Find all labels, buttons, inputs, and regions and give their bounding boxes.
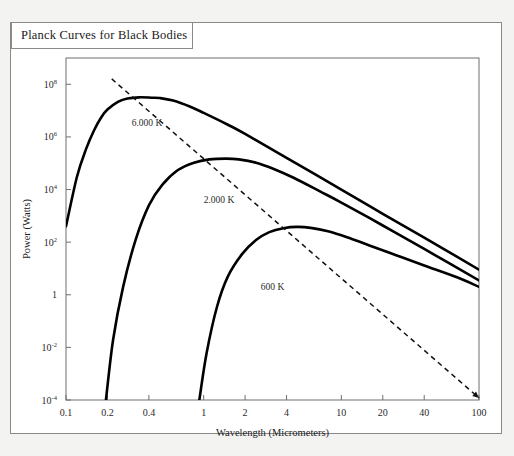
planck-curve-600k <box>199 227 479 400</box>
curve-label-600k: 600 K <box>261 282 285 292</box>
planck-curves-chart: 0.10.20.4124102040100108106104102110-210… <box>0 0 514 456</box>
x-tick-label: 10 <box>336 407 346 418</box>
x-tick-label: 2 <box>243 407 248 418</box>
y-tick-label: 1 <box>52 289 57 300</box>
axis-titles-group: Wavelength (Micrometers)Power (Watts) <box>21 198 330 439</box>
axis-ticks-group <box>66 84 479 400</box>
planck-curves-group <box>66 97 479 400</box>
plot-frame <box>66 58 479 400</box>
curve-label-2000k: 2.000 K <box>204 195 235 205</box>
y-tick-label: 108 <box>44 78 57 90</box>
y-axis-title: Power (Watts) <box>21 198 33 259</box>
chart-page: Planck Curves for Black Bodies 0.10.20.4… <box>0 0 514 456</box>
x-tick-label: 0.1 <box>60 407 73 418</box>
x-tick-label: 0.4 <box>143 407 156 418</box>
x-axis-title: Wavelength (Micrometers) <box>216 427 330 439</box>
y-tick-label: 10-2 <box>42 341 57 353</box>
y-tick-label: 10-4 <box>42 394 58 406</box>
y-tick-label: 106 <box>44 130 58 142</box>
x-tick-label: 40 <box>419 407 429 418</box>
x-tick-label: 0.2 <box>101 407 114 418</box>
curve-label-6000k: 6.000 K <box>132 118 163 128</box>
planck-curve-2000k <box>106 159 479 400</box>
y-tick-label: 104 <box>44 183 58 195</box>
x-tick-label: 100 <box>472 407 487 418</box>
x-tick-label: 4 <box>284 407 289 418</box>
axes-group <box>66 58 479 400</box>
y-tick-label: 102 <box>44 236 57 248</box>
x-tick-label: 1 <box>201 407 206 418</box>
x-tick-label: 20 <box>378 407 388 418</box>
